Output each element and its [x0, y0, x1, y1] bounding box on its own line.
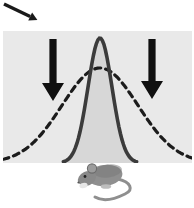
down-arrow-right: [141, 39, 163, 99]
distribution-panel: [3, 31, 192, 163]
distribution-chart: [3, 31, 192, 163]
pointer-arrow-shaft: [4, 4, 30, 16]
mouse-image: [68, 158, 140, 206]
mouse-eye: [84, 175, 87, 178]
figure: [0, 0, 194, 208]
mouse-ear: [87, 164, 96, 173]
down-arrow-left: [42, 39, 64, 101]
narrow-distribution-fill: [63, 38, 136, 163]
mouse-hindfoot: [101, 184, 111, 189]
pointer-arrow-head: [28, 12, 39, 24]
pointer-arrow-icon: [0, 0, 46, 28]
mouse-nose: [77, 181, 79, 183]
